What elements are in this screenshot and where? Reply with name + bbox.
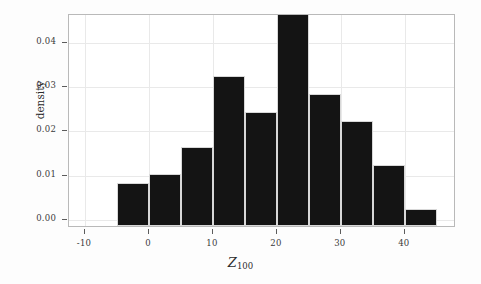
y-tick-mark xyxy=(62,130,67,131)
x-tick-label: 30 xyxy=(315,238,365,248)
x-tick-mark xyxy=(148,229,149,234)
histogram-bar xyxy=(309,94,341,226)
histogram-bar xyxy=(181,147,213,226)
histogram-bar xyxy=(117,183,149,226)
x-tick-label: 10 xyxy=(187,238,237,248)
histogram-bars xyxy=(69,15,454,226)
x-axis-label-subscript: 100 xyxy=(237,261,253,271)
histogram-bar xyxy=(277,14,309,226)
y-tick-label: 0.02 xyxy=(2,124,56,134)
histogram-bar xyxy=(405,209,437,226)
x-tick-mark xyxy=(340,229,341,234)
y-tick-label: 0.01 xyxy=(2,169,56,179)
y-tick-mark xyxy=(62,219,67,220)
x-axis-label: Z100 xyxy=(0,255,481,271)
plot-area xyxy=(68,14,455,227)
y-tick-label: 0.03 xyxy=(2,80,56,90)
x-tick-mark xyxy=(404,229,405,234)
histogram-bar xyxy=(373,165,405,226)
histogram-bar xyxy=(149,174,181,226)
x-tick-label: 0 xyxy=(123,238,173,248)
x-tick-mark xyxy=(212,229,213,234)
y-tick-mark xyxy=(62,86,67,87)
histogram-bar xyxy=(245,112,277,226)
x-tick-label: 20 xyxy=(251,238,301,248)
histogram-figure: 0.000.010.020.030.04 -10010203040 densit… xyxy=(0,0,481,284)
histogram-bar xyxy=(213,76,245,226)
y-tick-mark xyxy=(62,175,67,176)
x-axis-label-symbol: Z xyxy=(228,255,237,270)
x-tick-mark xyxy=(84,229,85,234)
y-tick-label: 0.00 xyxy=(2,213,56,223)
x-tick-label: 40 xyxy=(379,238,429,248)
x-tick-label: -10 xyxy=(59,238,109,248)
y-tick-mark xyxy=(62,42,67,43)
y-axis-label: density xyxy=(34,70,46,130)
histogram-bar xyxy=(341,121,373,226)
y-tick-label: 0.04 xyxy=(2,36,56,46)
x-tick-mark xyxy=(276,229,277,234)
